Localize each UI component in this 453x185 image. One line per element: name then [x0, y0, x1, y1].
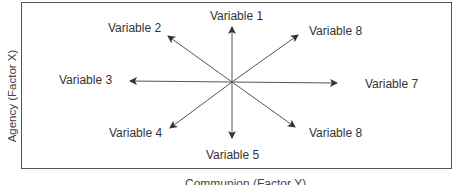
label-variable-3: Variable 3 [59, 73, 112, 87]
arrow-variable-4 [170, 82, 232, 128]
arrow-variable-7 [232, 82, 337, 83]
label-variable-7: Variable 7 [365, 77, 418, 91]
label-variable-8-lower: Variable 8 [309, 126, 362, 140]
label-variable-5: Variable 5 [206, 148, 259, 162]
label-variable-8-upper: Variable 8 [309, 24, 362, 38]
label-variable-2: Variable 2 [108, 21, 161, 35]
arrow-variable-2 [168, 36, 232, 82]
arrow-variable-3 [130, 81, 232, 82]
x-axis-label: Communion (Factor Y) [185, 177, 306, 185]
label-variable-1: Variable 1 [210, 9, 263, 23]
arrow-variable-8-upper [232, 35, 298, 82]
label-variable-4: Variable 4 [109, 126, 162, 140]
arrow-variable-8-lower [232, 82, 295, 127]
y-axis-label: Agency (Factor X) [6, 46, 18, 146]
